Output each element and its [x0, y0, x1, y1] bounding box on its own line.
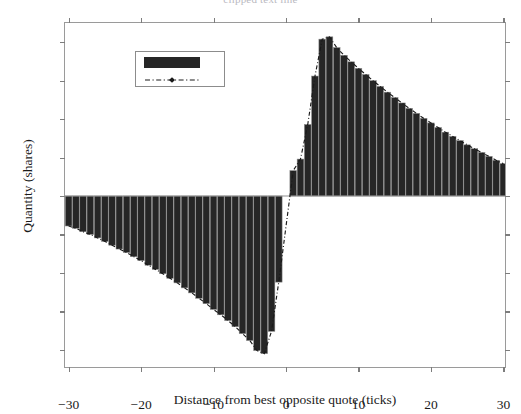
y-tick-mark-right — [505, 81, 510, 82]
bar — [232, 196, 239, 327]
bar — [500, 164, 505, 196]
bar — [420, 118, 427, 196]
bar — [239, 196, 246, 334]
bar — [152, 196, 159, 269]
bar — [225, 196, 232, 321]
x-tick-mark — [503, 367, 504, 372]
bar — [377, 86, 384, 196]
bar — [217, 196, 224, 315]
bar — [457, 141, 464, 196]
y-tick-mark-right — [505, 234, 510, 235]
plot-area — [65, 23, 505, 367]
bar — [246, 196, 253, 341]
bar — [87, 196, 94, 234]
bar — [413, 113, 420, 196]
bar — [275, 196, 282, 282]
bar — [348, 62, 355, 196]
x-tick-mark-top — [214, 18, 215, 23]
y-tick-mark — [60, 350, 65, 351]
bar — [167, 196, 174, 278]
y-tick-mark — [60, 81, 65, 82]
bar — [80, 196, 87, 232]
bar — [471, 149, 478, 196]
legend — [135, 51, 225, 87]
y-tick-mark — [60, 42, 65, 43]
bar — [261, 196, 268, 354]
bar — [399, 103, 406, 196]
bar — [464, 145, 471, 196]
bar — [341, 55, 348, 196]
bar — [384, 92, 391, 196]
bar — [478, 153, 485, 196]
bar — [131, 196, 138, 257]
bar — [290, 171, 297, 196]
y-tick-mark-right — [505, 42, 510, 43]
x-tick-mark-top — [141, 18, 142, 23]
x-tick-mark-top — [431, 18, 432, 23]
y-tick-mark-right — [505, 119, 510, 120]
bar — [94, 196, 101, 238]
bar — [355, 68, 362, 196]
bar — [254, 196, 261, 351]
bar — [174, 196, 181, 283]
bar — [188, 196, 195, 293]
bar — [370, 81, 377, 196]
bar — [116, 196, 123, 249]
y-tick-mark — [60, 119, 65, 120]
bar — [326, 37, 333, 196]
legend-swatch-bar — [144, 57, 200, 68]
x-tick-mark — [431, 367, 432, 372]
bar — [65, 196, 72, 226]
bar — [486, 156, 493, 196]
bar — [391, 98, 398, 196]
x-tick-label: 30 — [497, 397, 511, 413]
bar — [319, 39, 326, 196]
x-tick-label: 20 — [424, 397, 438, 413]
bar — [304, 124, 311, 196]
y-tick-mark-right — [505, 273, 510, 274]
bar — [145, 196, 152, 265]
bar — [435, 128, 442, 196]
y-axis-title: Quantity (shares) — [20, 96, 36, 276]
y-tick-mark-right — [505, 350, 510, 351]
bar — [210, 196, 217, 309]
bar-series — [65, 37, 505, 354]
bar — [333, 48, 340, 196]
y-tick-mark-right — [505, 311, 510, 312]
bar — [181, 196, 188, 288]
bar — [196, 196, 203, 298]
plot-svg — [65, 23, 505, 367]
x-tick-label: −10 — [203, 397, 224, 413]
figure-chart: clipped text line Quantity (shares) Dist… — [0, 0, 521, 414]
plot-frame: −2000−1500−1000−5000500100015002000−30−2… — [64, 22, 506, 368]
y-tick-mark-right — [505, 196, 510, 197]
y-tick-mark-right — [505, 158, 510, 159]
y-tick-mark — [60, 158, 65, 159]
y-tick-mark — [60, 311, 65, 312]
x-tick-mark-top — [358, 18, 359, 23]
bar — [268, 196, 275, 331]
bar — [297, 159, 304, 196]
legend-swatch-line — [144, 76, 200, 84]
x-tick-mark — [69, 367, 70, 372]
x-tick-label: −20 — [131, 397, 152, 413]
bar — [138, 196, 145, 261]
bar — [406, 108, 413, 196]
x-tick-label: 10 — [352, 397, 366, 413]
y-tick-mark — [60, 273, 65, 274]
bar — [73, 196, 80, 228]
bar — [442, 132, 449, 196]
x-tick-mark-top — [286, 18, 287, 23]
bar — [123, 196, 130, 253]
y-tick-mark — [60, 196, 65, 197]
bar — [493, 160, 500, 196]
x-tick-mark — [358, 367, 359, 372]
x-tick-label: −30 — [58, 397, 79, 413]
x-tick-label: 0 — [283, 397, 290, 413]
bar — [428, 123, 435, 196]
bar — [159, 196, 166, 274]
x-tick-mark-top — [69, 18, 70, 23]
bar — [102, 196, 109, 241]
bar — [449, 136, 456, 196]
bar — [203, 196, 210, 304]
